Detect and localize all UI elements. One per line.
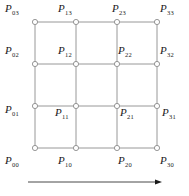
control-point-node-33[interactable] [154,19,159,24]
label-base-letter: P [112,2,119,14]
label-subscript: 21 [127,113,134,120]
control-point-node-13[interactable] [73,19,78,24]
grid-lines [35,22,157,148]
control-point-node-22[interactable] [114,61,119,66]
label-subscript: 22 [125,51,132,58]
control-point-node-10[interactable] [73,145,78,150]
control-point-node-21[interactable] [114,103,119,108]
label-subscript: 12 [65,51,72,58]
control-point-label-30: P30 [160,155,174,166]
direction-arrow [28,179,162,184]
label-base-letter: P [162,106,169,118]
label-subscript: 33 [167,9,174,16]
control-point-node-03[interactable] [32,19,37,24]
control-point-label-31: P31 [162,107,176,118]
control-point-label-03: P03 [5,3,19,14]
control-point-node-12[interactable] [73,61,78,66]
control-point-label-13: P13 [58,3,72,14]
label-subscript: 32 [167,51,174,58]
control-point-label-33: P33 [160,3,174,14]
control-point-label-32: P32 [160,45,174,56]
control-point-grid-figure: P03P13P23P33P02P12P22P32P01P11P21P31P00P… [0,0,189,196]
control-point-label-11: P11 [55,107,68,118]
label-base-letter: P [5,2,12,14]
label-base-letter: P [160,44,167,56]
label-subscript: 02 [12,51,19,58]
label-subscript: 01 [12,110,19,117]
label-base-letter: P [58,154,65,166]
label-base-letter: P [5,154,12,166]
label-subscript: 30 [167,161,174,168]
label-base-letter: P [58,44,65,56]
control-point-label-21: P21 [120,107,134,118]
control-point-node-30[interactable] [154,145,159,150]
label-base-letter: P [5,44,12,56]
label-base-letter: P [55,106,62,118]
label-subscript: 20 [125,161,132,168]
label-subscript: 03 [12,9,19,16]
control-point-label-23: P23 [112,3,126,14]
label-base-letter: P [118,44,125,56]
label-subscript: 23 [119,9,126,16]
control-point-node-11[interactable] [73,103,78,108]
label-subscript: 31 [169,113,176,120]
arrow-head-icon [155,179,162,184]
control-point-label-20: P20 [118,155,132,166]
control-point-label-10: P10 [58,155,72,166]
control-point-label-22: P22 [118,45,132,56]
label-base-letter: P [58,2,65,14]
label-base-letter: P [118,154,125,166]
grid-nodes [32,19,159,150]
label-base-letter: P [5,103,12,115]
label-base-letter: P [120,106,127,118]
grid-graphic [0,0,189,196]
control-point-label-02: P02 [5,45,19,56]
label-subscript: 11 [62,113,69,120]
control-point-node-20[interactable] [114,145,119,150]
control-point-node-32[interactable] [154,61,159,66]
control-point-label-12: P12 [58,45,72,56]
control-point-node-00[interactable] [32,145,37,150]
control-point-node-23[interactable] [114,19,119,24]
label-subscript: 00 [12,161,19,168]
control-point-label-01: P01 [5,104,19,115]
control-point-node-02[interactable] [32,61,37,66]
label-base-letter: P [160,2,167,14]
label-base-letter: P [160,154,167,166]
label-subscript: 10 [65,161,72,168]
label-subscript: 13 [65,9,72,16]
control-point-node-01[interactable] [32,103,37,108]
control-point-label-00: P00 [5,155,19,166]
control-point-node-31[interactable] [154,103,159,108]
